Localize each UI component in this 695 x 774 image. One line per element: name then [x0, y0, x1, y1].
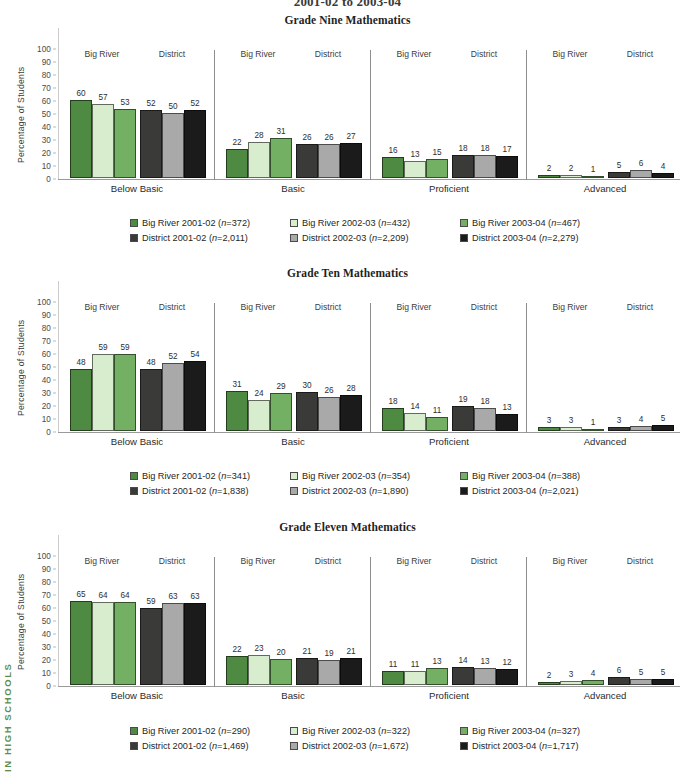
y-tick-mark [53, 166, 56, 167]
legend-sample-size: (n=354) [376, 471, 411, 481]
plot-area: Percentage of Students100908070605040302… [0, 281, 695, 447]
x-axis-category-label: Below Basic [68, 183, 206, 194]
group-separator [370, 303, 371, 433]
y-tick-mark [53, 88, 56, 89]
x-axis-line [58, 686, 680, 687]
legend-label: District 2003-04 [472, 233, 536, 243]
y-axis-line [58, 535, 59, 687]
chart-legend: Big River 2001-02 (n=290)Big River 2002-… [0, 726, 695, 756]
bar: 22 [226, 656, 248, 685]
legend-item[interactable]: District 2001-02 (n=2,011) [130, 233, 248, 243]
bar-value-label: 13 [480, 657, 489, 666]
bar-group: Big RiverDistrict605753525052 [68, 27, 206, 179]
legend-label: Big River 2003-04 [472, 726, 546, 736]
y-tick-mark [53, 62, 56, 63]
bar: 11 [426, 417, 448, 431]
legend-item[interactable]: Big River 2003-04 (n=467) [460, 218, 580, 228]
bar-value-label: 3 [547, 416, 552, 425]
y-tick-mark [53, 153, 56, 154]
legend-sample-size: (n=290) [216, 726, 251, 736]
y-tick-mark [53, 621, 56, 622]
legend-item[interactable]: Big River 2002-03 (n=322) [290, 726, 410, 736]
y-tick-mark [53, 419, 56, 420]
page-top-title: 2001-02 to 2003-04 [0, 0, 695, 6]
legend-label: District 2001-02 [142, 233, 206, 243]
legend-sample-size: (n=1,672) [366, 741, 408, 751]
group-header-big-river: Big River [224, 302, 292, 312]
group-header-big-river: Big River [380, 302, 448, 312]
bar-value-label: 5 [661, 668, 666, 677]
legend-item[interactable]: Big River 2003-04 (n=388) [460, 471, 580, 481]
x-axis-category-label: Advanced [536, 183, 674, 194]
bar: 48 [70, 369, 92, 431]
legend-item[interactable]: District 2002-03 (n=2,209) [290, 233, 409, 243]
bar-value-label: 15 [432, 148, 441, 157]
y-tick-label: 40 [29, 630, 51, 639]
bar: 4 [630, 426, 652, 431]
bar: 5 [652, 679, 674, 686]
bar: 3 [608, 427, 630, 431]
legend-item[interactable]: Big River 2001-02 (n=341) [130, 471, 250, 481]
y-tick-label: 100 [29, 552, 51, 561]
y-tick-label: 40 [29, 123, 51, 132]
bar: 50 [162, 113, 184, 178]
legend-item[interactable]: District 2001-02 (n=1,838) [130, 486, 249, 496]
y-tick-mark [53, 582, 56, 583]
group-header-district: District [138, 556, 206, 566]
bar-group: Big RiverDistrict111113141312 [380, 534, 518, 686]
legend-item[interactable]: District 2003-04 (n=2,279) [460, 233, 579, 243]
bar-value-label: 28 [254, 131, 263, 140]
group-separator [526, 557, 527, 687]
y-tick-label: 30 [29, 643, 51, 652]
legend-label: Big River 2001-02 [142, 471, 216, 481]
bar-value-label: 59 [120, 343, 129, 352]
legend-item[interactable]: Big River 2003-04 (n=327) [460, 726, 580, 736]
y-tick-mark [53, 556, 56, 557]
legend-item[interactable]: Big River 2002-03 (n=354) [290, 471, 410, 481]
legend-item[interactable]: Big River 2002-03 (n=432) [290, 218, 410, 228]
legend-sample-size: (n=327) [546, 726, 581, 736]
legend-item[interactable]: Big River 2001-02 (n=290) [130, 726, 250, 736]
bar-value-label: 5 [639, 668, 644, 677]
bar-value-label: 59 [98, 343, 107, 352]
bar: 1 [582, 176, 604, 178]
x-axis-category-label: Basic [224, 690, 362, 701]
group-separator [526, 50, 527, 180]
bar-value-label: 52 [190, 99, 199, 108]
legend-swatch-icon [130, 234, 138, 242]
bar-value-label: 2 [547, 671, 552, 680]
legend-label: District 2002-03 [302, 741, 366, 751]
bar: 2 [560, 175, 582, 178]
bar: 23 [248, 655, 270, 685]
legend-item[interactable]: District 2001-02 (n=1,469) [130, 741, 249, 751]
y-tick-mark [53, 634, 56, 635]
legend-item[interactable]: District 2003-04 (n=1,717) [460, 741, 579, 751]
chart-title: Grade Ten Mathematics [0, 267, 695, 279]
bar-value-label: 23 [254, 644, 263, 653]
legend-item[interactable]: District 2003-04 (n=2,021) [460, 486, 579, 496]
legend-item[interactable]: District 2002-03 (n=1,890) [290, 486, 409, 496]
group-separator [526, 303, 527, 433]
group-header-district: District [294, 49, 362, 59]
bar-value-label: 13 [432, 657, 441, 666]
bar: 18 [382, 408, 404, 431]
bar-value-label: 64 [98, 591, 107, 600]
bar-value-label: 26 [324, 386, 333, 395]
bar: 21 [296, 658, 318, 685]
y-tick-mark [53, 647, 56, 648]
bar-value-label: 11 [433, 406, 442, 415]
legend-item[interactable]: District 2002-03 (n=1,672) [290, 741, 409, 751]
bar: 24 [248, 400, 270, 431]
group-header-big-river: Big River [224, 556, 292, 566]
bar-value-label: 60 [76, 89, 85, 98]
bar: 53 [114, 109, 136, 178]
bar-value-label: 1 [591, 418, 596, 427]
bar-value-label: 30 [302, 381, 311, 390]
bar: 63 [162, 603, 184, 685]
bar: 27 [340, 143, 362, 178]
bar-value-label: 54 [190, 350, 199, 359]
legend-item[interactable]: Big River 2001-02 (n=372) [130, 218, 250, 228]
bar-group: Big RiverDistrict222320211921 [224, 534, 362, 686]
y-tick-mark [53, 393, 56, 394]
bar-value-label: 13 [502, 403, 511, 412]
